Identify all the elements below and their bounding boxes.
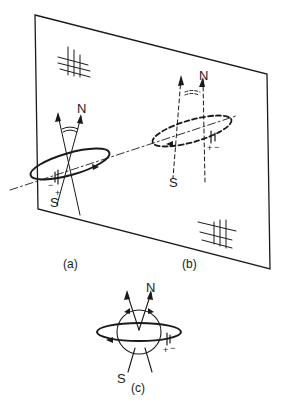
south-label: S [117,371,126,386]
north-label: N [199,68,208,83]
precession-arc [185,91,200,93]
battery-minus-label: − [214,142,219,152]
battery-plus-label: + [207,143,212,153]
hatch-mark-icon [58,47,90,77]
arrow-icon [124,290,130,300]
south-label: S [169,175,178,190]
precession-arc [62,127,78,129]
precession-sphere [117,310,161,354]
panel-label: (c) [131,381,145,395]
north-label: N [146,280,155,295]
battery-minus-label: − [170,343,175,353]
current-loop-a [28,142,113,186]
panel-label: (a) [63,257,78,271]
current-loop-b [150,109,235,153]
battery-plus-label: + [163,345,168,355]
mirror-symmetry-diagram: − + N S (a) − + N S (b) [0,0,284,411]
panel-a: − + N S (a) [28,101,113,271]
panel-c: − + N S (c) [97,280,181,395]
panel-label: (b) [182,257,197,271]
arrow-icon [55,112,61,122]
current-loop-c [97,323,181,341]
south-label: S [50,195,59,210]
arrow-icon [178,75,184,86]
north-label: N [77,101,86,116]
battery-minus-label: − [48,180,53,190]
hatch-mark-icon [198,220,236,248]
